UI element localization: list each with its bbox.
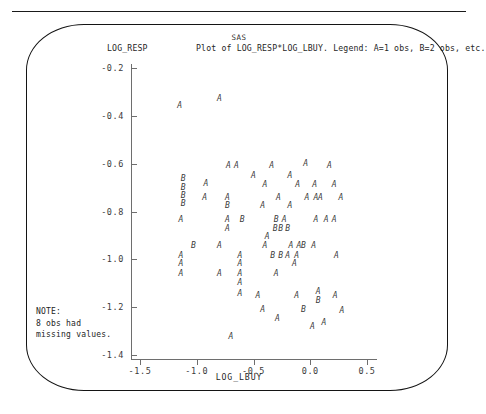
data-point-marker: A (295, 181, 300, 189)
data-point-marker: A (304, 194, 309, 202)
missing-values-note: NOTE: 8 obs had missing values. (36, 306, 111, 341)
data-point-marker: A (202, 194, 207, 202)
data-point-marker: B (270, 252, 275, 260)
data-point-marker: A (217, 270, 222, 278)
data-point-marker: A (285, 252, 290, 260)
data-point-marker: A (314, 216, 319, 224)
data-point-marker: A (321, 319, 326, 327)
data-point-marker: A (203, 180, 208, 188)
data-point-marker: A (332, 216, 337, 224)
y-axis-tick (131, 259, 137, 260)
data-point-marker: A (251, 172, 256, 180)
data-point-marker: A (275, 315, 280, 323)
data-point-marker: A (287, 202, 292, 210)
data-point-marker: A (225, 216, 230, 224)
data-point-marker: A (234, 162, 239, 170)
data-point-marker: A (311, 242, 316, 250)
data-point-marker: A (226, 162, 231, 170)
x-axis-name-label: LOG_LBUY (0, 372, 478, 382)
data-point-marker: A (237, 270, 242, 278)
data-point-marker: A (265, 233, 270, 241)
data-point-marker: B (274, 216, 279, 224)
y-axis-tick (131, 116, 137, 117)
data-point-marker: A (310, 323, 315, 331)
data-point-marker: A (292, 260, 297, 268)
data-point-marker: A (276, 194, 281, 202)
data-point-marker: A (312, 181, 317, 189)
y-axis-tick (131, 164, 137, 165)
y-axis-tick-label: -1.4 (84, 350, 124, 360)
data-point-marker: A (178, 270, 183, 278)
data-point-marker: A (237, 290, 242, 298)
data-point-marker: A (289, 242, 294, 250)
data-point-marker: B (316, 297, 321, 305)
data-point-marker: A (303, 160, 308, 168)
data-point-marker: A (332, 181, 337, 189)
y-axis-tick-label: -0.2 (84, 63, 124, 73)
data-point-marker: A (316, 288, 321, 296)
y-axis-tick (131, 212, 137, 213)
data-point-marker: A (318, 194, 323, 202)
data-point-marker: A (333, 292, 338, 300)
data-point-marker: A (217, 95, 222, 103)
data-point-marker: A (177, 102, 182, 110)
data-point-marker: A (340, 307, 345, 315)
data-point-marker: B (181, 200, 186, 208)
y-axis-tick (131, 68, 137, 69)
data-point-marker: B (273, 225, 278, 233)
data-point-marker: A (269, 162, 274, 170)
y-axis-tick-label: -0.6 (84, 159, 124, 169)
x-axis-tick (197, 359, 198, 365)
data-point-marker: B (285, 225, 290, 233)
data-point-marker: A (178, 260, 183, 268)
data-point-marker: A (282, 216, 287, 224)
data-point-marker: A (262, 181, 267, 189)
data-point-marker: A (294, 292, 299, 300)
data-point-marker: A (287, 172, 292, 180)
data-point-marker: A (327, 162, 332, 170)
y-axis-tick-label: -1.0 (84, 254, 124, 264)
data-point-marker: A (260, 306, 265, 314)
x-axis-tick (310, 359, 311, 365)
data-point-marker: A (334, 252, 339, 260)
data-point-marker: B (301, 242, 306, 250)
y-axis-tick (131, 355, 137, 356)
data-point-marker: A (260, 202, 265, 210)
x-axis-tick (254, 359, 255, 365)
data-point-marker: A (178, 216, 183, 224)
y-axis-tick-label: -0.8 (84, 207, 124, 217)
data-point-marker: B (225, 202, 230, 210)
data-point-marker: A (237, 260, 242, 268)
data-point-marker: A (237, 279, 242, 287)
data-point-marker: A (256, 292, 261, 300)
data-point-marker: A (262, 242, 267, 250)
y-axis-tick-label: -0.4 (84, 111, 124, 121)
data-point-marker: A (324, 216, 329, 224)
data-point-marker: B (278, 252, 283, 260)
data-point-marker: A (228, 333, 233, 341)
data-point-marker: A (274, 270, 279, 278)
y-axis-tick (131, 307, 137, 308)
data-point-marker: A (217, 242, 222, 250)
data-point-marker: B (191, 242, 196, 250)
data-point-marker: A (225, 225, 230, 233)
x-axis-tick (367, 359, 368, 365)
data-point-marker: A (338, 194, 343, 202)
data-point-marker: B (301, 306, 306, 314)
data-point-marker: B (278, 225, 283, 233)
x-axis-tick (140, 359, 141, 365)
data-point-marker: B (240, 216, 245, 224)
